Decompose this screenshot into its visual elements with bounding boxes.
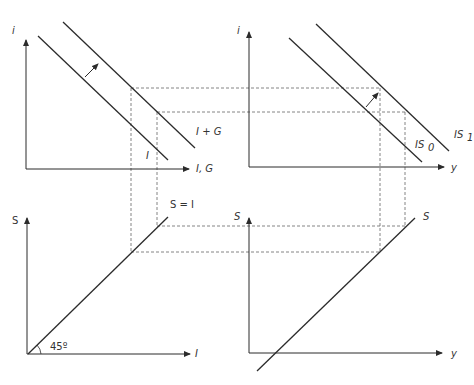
y-axis-label: i <box>12 25 15 36</box>
y-axis-label: S <box>234 211 241 222</box>
x-axis-label: I <box>195 348 198 359</box>
shift-arrow-icon <box>85 64 98 77</box>
forty-five-degree-line <box>28 217 168 354</box>
panel-savings-equals-investment: S I S = I 45º <box>12 199 198 359</box>
is0-label: IS <box>415 139 425 150</box>
curve-label-i-plus-g: I + G <box>196 126 222 137</box>
x-axis-label: I, G <box>196 163 213 174</box>
panel-investment: i I, G I I + G <box>12 22 222 174</box>
is0-subscript: 0 <box>428 142 434 153</box>
panel-is-curve: i y IS 0 IS 1 <box>237 24 473 173</box>
savings-curve <box>257 218 415 371</box>
investment-curve <box>38 36 168 160</box>
curve-label-i: I <box>146 150 149 161</box>
angle-label: 45º <box>50 341 68 352</box>
y-axis-label: S <box>12 215 18 226</box>
is-curve-diagram: i I, G I I + G i y IS 0 IS 1 S I S = I 4… <box>0 0 474 385</box>
investment-plus-government-curve <box>63 22 195 148</box>
panel-savings-function: S y S <box>234 211 458 371</box>
is1-curve <box>316 24 449 151</box>
curve-label-s: S <box>423 211 430 222</box>
is1-label: IS <box>454 129 464 140</box>
is0-curve <box>289 38 422 162</box>
x-axis-label: y <box>450 348 458 359</box>
curve-label-s-equals-i: S = I <box>170 199 194 210</box>
is1-subscript: 1 <box>467 132 473 143</box>
y-axis-label: i <box>237 25 240 36</box>
shift-arrow-icon <box>366 93 378 107</box>
x-axis-label: y <box>450 162 458 173</box>
angle-arc <box>37 345 41 354</box>
dashed-guides <box>131 88 405 252</box>
